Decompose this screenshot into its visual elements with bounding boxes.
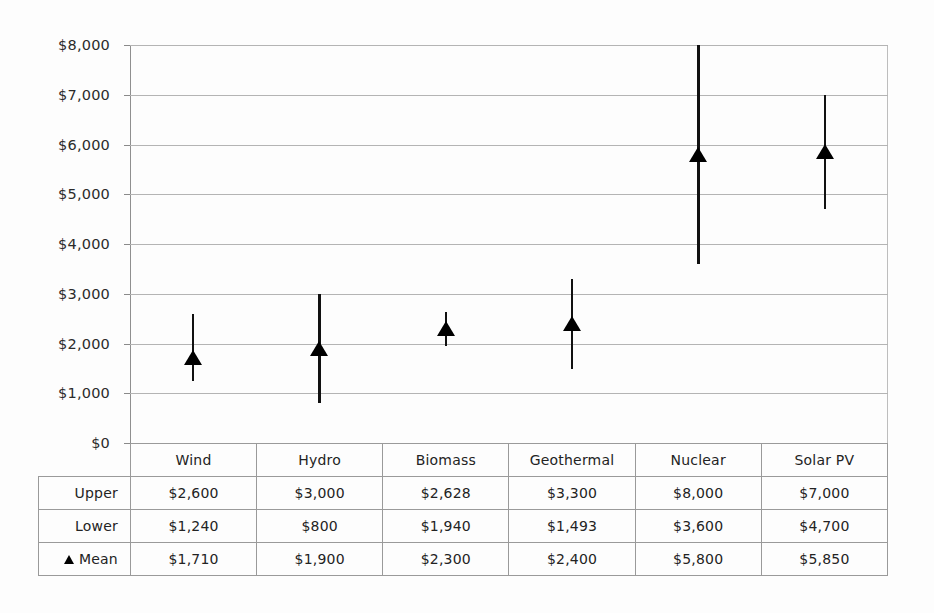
table-cell: $3,600 [635, 510, 761, 543]
table-header: WindHydroBiomassGeothermalNuclearSolar P… [39, 444, 888, 477]
mean-marker-triangle-icon [689, 147, 707, 162]
mean-marker-triangle-icon [184, 350, 202, 365]
table-cell: $5,800 [635, 543, 761, 576]
series-column-solar-pv [762, 45, 888, 443]
data-table: WindHydroBiomassGeothermalNuclearSolar P… [38, 443, 888, 576]
table-cell: $1,240 [130, 510, 256, 543]
y-axis-tick-label: $5,000 [58, 186, 110, 202]
y-axis-tick-label: $3,000 [58, 286, 110, 302]
mean-marker-triangle-icon [563, 316, 581, 331]
y-axis-tick-label: $4,000 [58, 236, 110, 252]
table-column-header: Geothermal [509, 444, 635, 477]
table-cell: $1,940 [383, 510, 509, 543]
table-cell: $800 [257, 510, 383, 543]
triangle-up-icon [64, 555, 74, 564]
series-column-geothermal [509, 45, 635, 443]
series-column-wind [130, 45, 256, 443]
y-axis-tick-label: $8,000 [58, 37, 110, 53]
table-cell: $2,600 [130, 477, 256, 510]
table-row-label: Lower [39, 510, 131, 543]
table-cell: $5,850 [761, 543, 887, 576]
table-cell: $3,300 [509, 477, 635, 510]
table-column-header: Nuclear [635, 444, 761, 477]
table-body: Upper$2,600$3,000$2,628$3,300$8,000$7,00… [39, 477, 888, 576]
table-cell: $2,300 [383, 543, 509, 576]
plot-area [130, 45, 888, 443]
table-cell: $8,000 [635, 477, 761, 510]
chart-page: $8,000$7,000$6,000$5,000$4,000$3,000$2,0… [0, 0, 934, 613]
table-cell: $2,628 [383, 477, 509, 510]
table-row-label: Mean [39, 543, 131, 576]
mean-marker-triangle-icon [816, 144, 834, 159]
table-cell: $4,700 [761, 510, 887, 543]
error-bar [192, 314, 194, 382]
y-axis-tick-label: $6,000 [58, 137, 110, 153]
table-row: Upper$2,600$3,000$2,628$3,300$8,000$7,00… [39, 477, 888, 510]
table-cell: $7,000 [761, 477, 887, 510]
table-corner-cell [39, 444, 131, 477]
series-column-hydro [256, 45, 382, 443]
table-cell: $1,900 [257, 543, 383, 576]
mean-marker-triangle-icon [310, 341, 328, 356]
table-header-row: WindHydroBiomassGeothermalNuclearSolar P… [39, 444, 888, 477]
table-row: Lower$1,240$800$1,940$1,493$3,600$4,700 [39, 510, 888, 543]
table-row: Mean$1,710$1,900$2,300$2,400$5,800$5,850 [39, 543, 888, 576]
y-axis-tick-label: $2,000 [58, 336, 110, 352]
table-column-header: Wind [130, 444, 256, 477]
table-cell: $1,493 [509, 510, 635, 543]
table-column-header: Solar PV [761, 444, 887, 477]
y-axis-tick-label: $7,000 [58, 87, 110, 103]
table-cell: $3,000 [257, 477, 383, 510]
y-axis-tick-label: $1,000 [58, 385, 110, 401]
table-column-header: Hydro [257, 444, 383, 477]
series-column-biomass [383, 45, 509, 443]
mean-marker-triangle-icon [437, 321, 455, 336]
table-column-header: Biomass [383, 444, 509, 477]
table-cell: $1,710 [130, 543, 256, 576]
table-row-label: Upper [39, 477, 131, 510]
mean-row-label-wrap: Mean [45, 551, 118, 567]
table-row-label-text: Mean [79, 551, 118, 567]
table-cell: $2,400 [509, 543, 635, 576]
series-column-nuclear [635, 45, 761, 443]
